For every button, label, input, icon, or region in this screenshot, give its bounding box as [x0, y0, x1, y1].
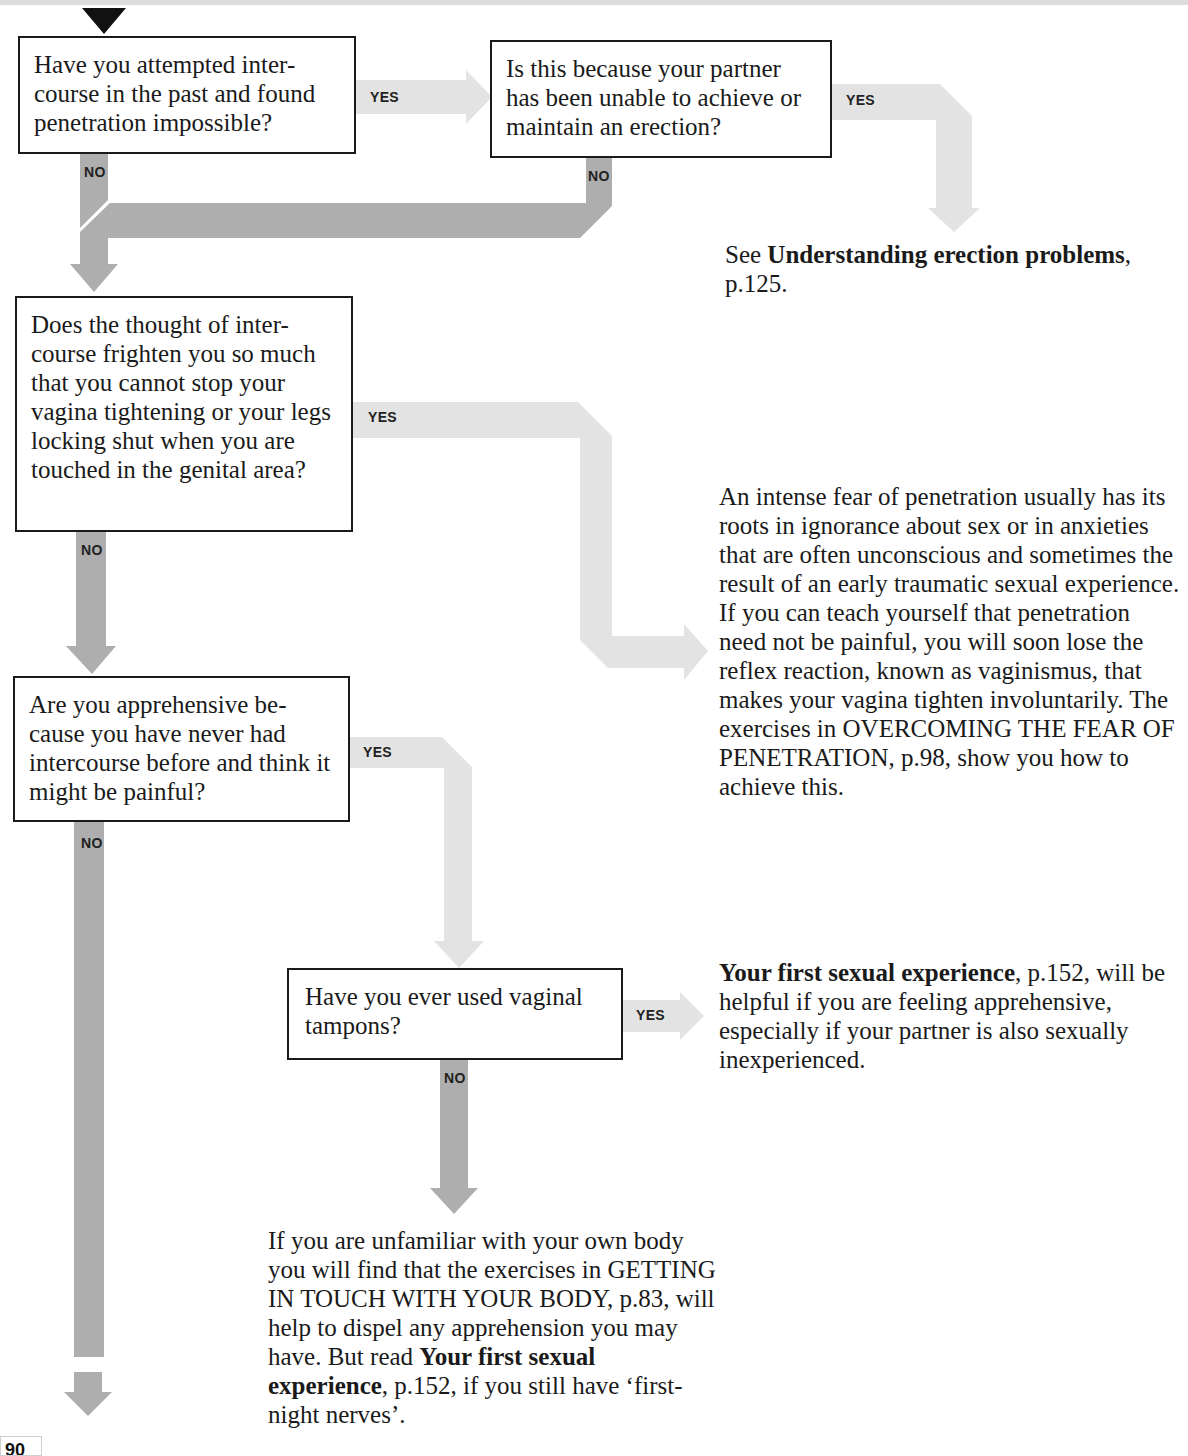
yes-label-q5: YES [636, 1007, 665, 1023]
question-text: Have you attempted inter-course in the p… [34, 51, 315, 136]
yes-label-q2: YES [846, 92, 875, 108]
question-box-q1: Have you attempted inter-course in the p… [18, 36, 356, 154]
cross-reference-link: Your first sexual experience [719, 959, 1015, 986]
no-label-q2: NO [588, 168, 610, 184]
question-box-q3: Does the thought of inter-course frighte… [15, 296, 353, 532]
answer-a4: If you are unfamiliar with your own body… [268, 1226, 718, 1429]
question-text: Have you ever used vaginal tampons? [305, 983, 583, 1039]
yes-label-q1: YES [370, 89, 399, 105]
answer-text: See [725, 241, 767, 268]
no-label-q3: NO [81, 542, 103, 558]
answer-a1: See Understanding erection problems, p.1… [725, 240, 1175, 298]
no-arrow-q4-down [74, 818, 104, 1357]
no-label-q1: NO [84, 164, 106, 180]
cross-reference-link: Understanding erection problems [767, 241, 1124, 268]
yes-arrow-q4-q5 [350, 737, 484, 968]
yes-label-q3: YES [368, 409, 397, 425]
question-box-q4: Are you apprehensive be-cause you have n… [13, 676, 350, 822]
question-text: Are you apprehensive be-cause you have n… [29, 691, 330, 805]
no-label-q5: NO [444, 1070, 466, 1086]
yes-arrow-q3-a2 [350, 402, 708, 680]
no-arrow-q2-q3 [70, 156, 612, 292]
start-marker-icon [82, 8, 126, 34]
no-arrow-continue-icon [64, 1372, 112, 1416]
no-label-q4: NO [81, 835, 103, 851]
question-text: Is this because your partner has been un… [506, 55, 801, 140]
question-box-q5: Have you ever used vaginal tampons? [287, 968, 623, 1060]
page-number: 90 [0, 1436, 42, 1456]
yes-label-q4: YES [363, 744, 392, 760]
answer-text: An intense fear of penetration usually h… [719, 483, 1179, 800]
answer-a2: An intense fear of penetration usually h… [719, 482, 1181, 801]
question-text: Does the thought of inter-course frighte… [31, 311, 331, 483]
answer-a3: Your first sexual experience, p.152, wil… [719, 958, 1181, 1074]
question-box-q2: Is this because your partner has been un… [490, 40, 832, 158]
